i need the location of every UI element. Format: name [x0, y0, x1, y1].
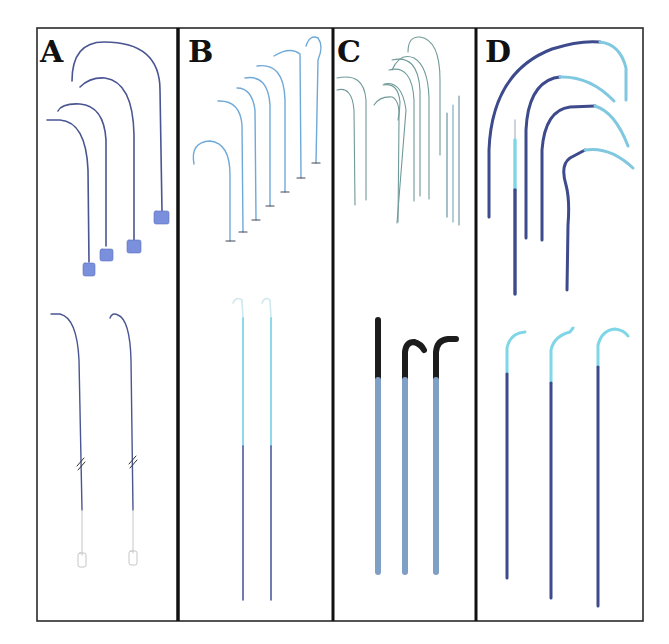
panel-label-b: B	[188, 34, 213, 69]
hub-icon	[154, 211, 169, 224]
panel-label-a: A	[39, 34, 64, 69]
hub-icon	[100, 249, 113, 261]
panel-label-c: C	[337, 34, 361, 69]
figure-canvas: A B C D	[0, 0, 669, 644]
hub-icon	[127, 240, 141, 253]
panel-label-d: D	[485, 34, 511, 69]
hub-icon	[83, 263, 95, 276]
